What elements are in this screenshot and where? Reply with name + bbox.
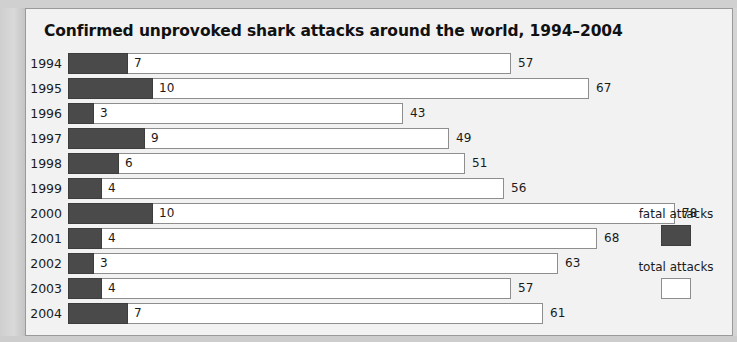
bar-fatal-attacks xyxy=(68,203,153,224)
value-label-fatal: 10 xyxy=(159,206,174,220)
year-label: 2000 xyxy=(26,206,62,221)
chart-row: 19951067 xyxy=(26,77,734,102)
value-label-total: 56 xyxy=(511,181,526,195)
chart-row: 1998651 xyxy=(26,152,734,177)
chart-legend: fatal attacks total attacks xyxy=(628,207,724,313)
value-label-total: 57 xyxy=(518,281,533,295)
page-edge-left xyxy=(0,0,25,342)
legend-label-total: total attacks xyxy=(628,260,724,274)
bar-total-attacks xyxy=(68,103,403,124)
year-label: 1994 xyxy=(26,56,62,71)
bar-total-attacks xyxy=(68,253,558,274)
value-label-fatal: 4 xyxy=(108,181,116,195)
bar-fatal-attacks xyxy=(68,178,102,199)
value-label-total: 51 xyxy=(472,156,487,170)
chart-row: 1994757 xyxy=(26,52,734,77)
value-label-total: 43 xyxy=(410,106,425,120)
bar-fatal-attacks xyxy=(68,78,153,99)
year-label: 1999 xyxy=(26,181,62,196)
bar-fatal-attacks xyxy=(68,278,102,299)
bar-fatal-attacks xyxy=(68,103,94,124)
bar-total-attacks xyxy=(68,228,597,249)
legend-swatch-total xyxy=(661,278,691,299)
value-label-fatal: 6 xyxy=(125,156,133,170)
value-label-total: 67 xyxy=(596,81,611,95)
value-label-fatal: 10 xyxy=(159,81,174,95)
page-edge-bottom xyxy=(0,336,737,342)
chart-row: 1997949 xyxy=(26,127,734,152)
chart-row: 1999456 xyxy=(26,177,734,202)
bar-fatal-attacks xyxy=(68,53,128,74)
year-label: 2003 xyxy=(26,281,62,296)
value-label-fatal: 4 xyxy=(108,281,116,295)
chart-title: Confirmed unprovoked shark attacks aroun… xyxy=(44,22,623,40)
legend-swatch-fatal xyxy=(661,225,691,246)
value-label-total: 57 xyxy=(518,56,533,70)
bar-fatal-attacks xyxy=(68,253,94,274)
value-label-fatal: 3 xyxy=(100,256,108,270)
year-label: 1998 xyxy=(26,156,62,171)
bar-total-attacks xyxy=(68,178,504,199)
value-label-total: 68 xyxy=(604,231,619,245)
value-label-fatal: 9 xyxy=(151,131,159,145)
bar-fatal-attacks xyxy=(68,228,102,249)
value-label-total: 49 xyxy=(456,131,471,145)
value-label-fatal: 3 xyxy=(100,106,108,120)
year-label: 1996 xyxy=(26,106,62,121)
value-label-fatal: 7 xyxy=(134,56,142,70)
page-edge-top xyxy=(0,0,737,8)
bar-fatal-attacks xyxy=(68,128,145,149)
bar-total-attacks xyxy=(68,278,511,299)
year-label: 1995 xyxy=(26,81,62,96)
value-label-fatal: 7 xyxy=(134,306,142,320)
bar-fatal-attacks xyxy=(68,303,128,324)
year-label: 2002 xyxy=(26,256,62,271)
year-label: 1997 xyxy=(26,131,62,146)
chart-row: 1996343 xyxy=(26,102,734,127)
value-label-total: 63 xyxy=(565,256,580,270)
value-label-fatal: 4 xyxy=(108,231,116,245)
bar-fatal-attacks xyxy=(68,153,119,174)
chart-panel: Confirmed unprovoked shark attacks aroun… xyxy=(25,8,733,336)
year-label: 2001 xyxy=(26,231,62,246)
year-label: 2004 xyxy=(26,306,62,321)
legend-label-fatal: fatal attacks xyxy=(628,207,724,221)
chart-page: Confirmed unprovoked shark attacks aroun… xyxy=(0,0,737,342)
value-label-total: 61 xyxy=(550,306,565,320)
